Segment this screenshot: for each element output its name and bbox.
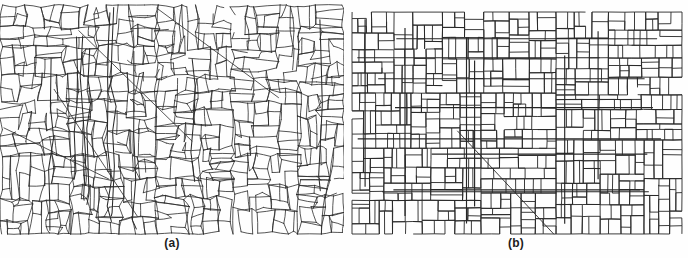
panel-b-caption: (b) <box>344 236 688 250</box>
panel-a-caption: (a) <box>0 236 344 250</box>
map-plot-rectilinear <box>344 0 688 258</box>
figure-root: (a) (b) <box>0 0 688 258</box>
panel-b: (b) <box>344 0 688 258</box>
map-plot-irregular <box>0 0 344 258</box>
panel-a: (a) <box>0 0 344 258</box>
